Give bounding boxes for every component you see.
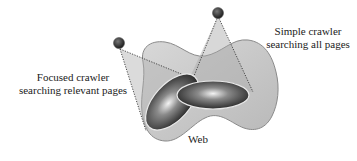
all-pages-ellipse [177,81,249,109]
focused-crawler-label-line1: Focused crawler [14,71,132,84]
focused-crawler-label-line2: searching relevant pages [14,84,132,97]
web-label: Web [188,133,218,146]
simple-crawler-label: Simple crawler searching all pages [262,25,354,51]
focused-crawler-icon [114,38,125,49]
focused-crawler-label: Focused crawler searching relevant pages [14,71,132,97]
simple-crawler-label-line2: searching all pages [262,38,354,51]
simple-crawler-label-line1: Simple crawler [262,25,354,38]
simple-crawler-icon [213,8,224,19]
